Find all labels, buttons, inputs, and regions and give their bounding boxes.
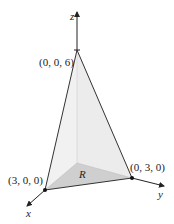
z-axis-label: z xyxy=(69,10,75,22)
x-axis xyxy=(27,190,45,206)
apex-label: (0, 0, 6) xyxy=(39,56,74,69)
y-intercept-label: (0, 3, 0) xyxy=(130,161,165,174)
region-label: R xyxy=(78,168,86,180)
y-axis xyxy=(132,178,164,186)
x-intercept-label: (3, 0, 0) xyxy=(8,174,43,187)
tetrahedron-diagram: z x y (0, 0, 6) (3, 0, 0) (0, 3, 0) R xyxy=(0,0,174,224)
x-axis-label: x xyxy=(25,207,31,219)
y-axis-label: y xyxy=(157,188,163,200)
point-y-intercept xyxy=(130,176,134,180)
point-x-intercept xyxy=(43,188,47,192)
